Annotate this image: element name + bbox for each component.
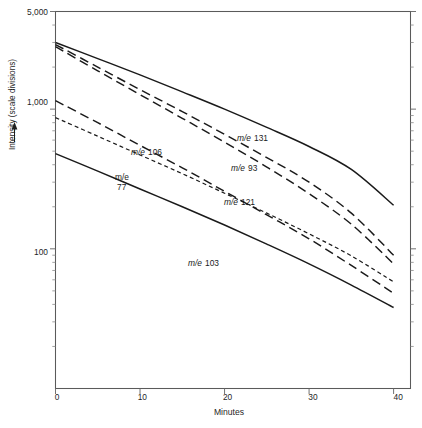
series-label-me-131: m/e131	[237, 133, 268, 143]
x-axis-title: Minutes	[214, 407, 244, 417]
x-tick-label-0: 0	[55, 392, 60, 402]
y-axis-title: Intensity (scale divisions)	[8, 59, 17, 150]
data-series-group	[56, 42, 394, 307]
y-axis-ticks	[50, 12, 56, 347]
series-label-me-103: m/e103	[188, 258, 219, 268]
series-line-me-131	[56, 42, 394, 205]
x-tick-label-10: 10	[138, 392, 148, 402]
series-label-me-121: m/e121	[224, 197, 255, 207]
series-label-me-121-value: 121	[241, 197, 255, 207]
x-tick-label-20: 20	[223, 392, 233, 402]
series-label-me-131-value: 131	[254, 133, 268, 143]
series-line-me-106	[56, 47, 394, 264]
series-label-me-77-value: 77	[117, 182, 127, 192]
series-label-me-103-value: 103	[205, 258, 219, 268]
series-label-me-103-prefix: m/e	[188, 258, 202, 268]
y-tick-label-5000: 5,000	[27, 7, 48, 17]
series-label-me-121-prefix: m/e	[224, 197, 238, 207]
chart-svg: 5,000 1,000 100 Intensity (scale divisio…	[0, 0, 422, 428]
series-label-me-77-prefix: m/e	[115, 172, 129, 182]
series-label-me-93-value: 93	[248, 163, 258, 173]
series-label-me-93: m/e93	[231, 163, 258, 173]
x-tick-label-30: 30	[308, 392, 318, 402]
series-label-me-93-prefix: m/e	[231, 163, 245, 173]
y-tick-label-1000: 1,000	[27, 97, 48, 107]
series-line-me-103	[56, 154, 394, 308]
y-tick-label-100: 100	[34, 247, 48, 257]
series-label-me-106-prefix: m/e	[131, 147, 145, 157]
series-label-me-131-prefix: m/e	[237, 133, 251, 143]
series-label-me-106-value: 106	[148, 147, 162, 157]
y-axis-ticks-right	[411, 12, 417, 347]
chart-figure: 5,000 1,000 100 Intensity (scale divisio…	[0, 0, 422, 428]
x-tick-label-40: 40	[394, 392, 404, 402]
